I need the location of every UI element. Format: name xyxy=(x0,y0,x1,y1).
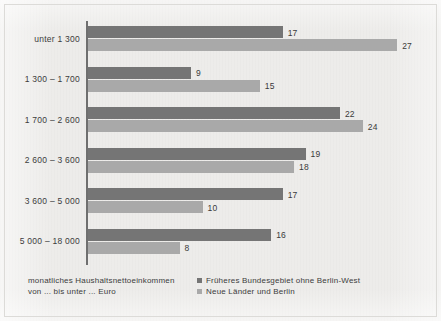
bar-value-label: 15 xyxy=(265,81,275,91)
category-label: 5 000 – 18 000 xyxy=(0,236,80,246)
bar-series-1 xyxy=(88,39,397,51)
category-label: unter 1 300 xyxy=(0,34,80,44)
legend-swatch-icon-series-0 xyxy=(197,278,202,283)
bar-series-0 xyxy=(88,148,306,160)
caption-line-2: von ... bis unter ... Euro xyxy=(28,286,175,297)
bar-value-label: 9 xyxy=(196,68,201,78)
bar-series-0 xyxy=(88,229,271,241)
bar-series-1 xyxy=(88,120,363,132)
bar-series-0 xyxy=(88,188,283,200)
bar-value-label: 10 xyxy=(208,203,218,213)
bar-value-label: 24 xyxy=(368,122,378,132)
bar-value-label: 18 xyxy=(299,162,309,172)
bar-series-1 xyxy=(88,161,294,173)
legend: Früheres Bundesgebiet ohne Berlin-West N… xyxy=(197,275,360,297)
category-label: 1 700 – 2 600 xyxy=(0,115,80,125)
legend-item-1: Neue Länder und Berlin xyxy=(197,286,360,297)
plot-area: unter 1 30017271 300 – 1 7009151 700 – 2… xyxy=(0,0,441,321)
legend-item-0: Früheres Bundesgebiet ohne Berlin-West xyxy=(197,275,360,286)
bar-value-label: 17 xyxy=(288,28,298,38)
bar-value-label: 22 xyxy=(345,109,355,119)
category-label: 1 300 – 1 700 xyxy=(0,74,80,84)
category-label: 2 600 – 3 600 xyxy=(0,155,80,165)
category-label: 3 600 – 5 000 xyxy=(0,196,80,206)
bar-series-0 xyxy=(88,67,191,79)
legend-swatch-icon-series-1 xyxy=(197,289,202,294)
bar-value-label: 27 xyxy=(402,41,412,51)
bar-series-1 xyxy=(88,242,180,254)
bar-value-label: 8 xyxy=(185,243,190,253)
legend-label-series-0: Früheres Bundesgebiet ohne Berlin-West xyxy=(206,275,360,286)
bar-chart-figure: unter 1 30017271 300 – 1 7009151 700 – 2… xyxy=(0,0,441,321)
bar-series-1 xyxy=(88,80,260,92)
bar-series-1 xyxy=(88,201,203,213)
caption: monatliches Haushaltsnettoeinkommen von … xyxy=(28,275,175,297)
bar-series-0 xyxy=(88,26,283,38)
caption-line-1: monatliches Haushaltsnettoeinkommen xyxy=(28,275,175,286)
legend-label-series-1: Neue Länder und Berlin xyxy=(206,286,295,297)
bar-value-label: 19 xyxy=(311,149,321,159)
bar-value-label: 17 xyxy=(288,190,298,200)
bar-value-label: 16 xyxy=(276,230,286,240)
bar-series-0 xyxy=(88,107,340,119)
